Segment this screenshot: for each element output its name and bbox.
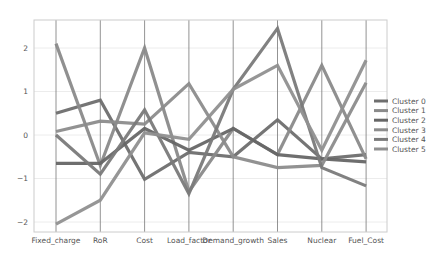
y-tick-label: 1 xyxy=(23,87,28,96)
x-axis-label: Fuel_Cost xyxy=(348,236,384,245)
x-axis-label: Nuclear xyxy=(307,236,337,245)
y-tick-label: 0 xyxy=(23,131,28,140)
legend-label: Cluster 0 xyxy=(392,97,426,106)
x-axis-label: Cost xyxy=(136,236,153,245)
y-tick-label: −2 xyxy=(17,218,28,227)
legend-label: Cluster 1 xyxy=(392,106,426,115)
category-axes xyxy=(56,20,366,232)
legend-label: Cluster 3 xyxy=(392,126,426,135)
legend: Cluster 0Cluster 1Cluster 2Cluster 3Clus… xyxy=(374,97,426,154)
x-axis-labels: Fixed_chargeRoRCostLoad_factorDemand_gro… xyxy=(32,236,385,245)
legend-label: Cluster 4 xyxy=(392,135,426,144)
y-tick-labels: −2−1012 xyxy=(17,44,28,227)
y-tick-label: 2 xyxy=(23,44,28,53)
x-axis-label: Fixed_charge xyxy=(32,236,81,245)
legend-label: Cluster 5 xyxy=(392,145,426,154)
cluster-lines xyxy=(56,28,366,224)
x-axis-label: Demand_growth xyxy=(202,236,264,245)
x-axis-label: RoR xyxy=(93,236,108,245)
x-axis-label: Sales xyxy=(268,236,288,245)
parallel-coordinates-chart: −2−1012 Fixed_chargeRoRCostLoad_factorDe… xyxy=(0,0,440,258)
grid xyxy=(34,48,387,222)
cluster-line xyxy=(56,28,366,193)
legend-label: Cluster 2 xyxy=(392,116,426,125)
y-tick-label: −1 xyxy=(17,174,28,183)
